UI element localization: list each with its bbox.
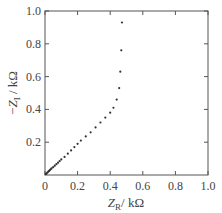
y-tick-label: 1.0 bbox=[26, 4, 41, 18]
data-point bbox=[119, 71, 121, 73]
data-point bbox=[90, 131, 92, 133]
data-point bbox=[54, 165, 56, 167]
y-tick-label: 0.2 bbox=[26, 135, 41, 149]
data-point bbox=[63, 156, 65, 158]
x-tick-label: 0.2 bbox=[70, 179, 85, 193]
data-point bbox=[120, 49, 122, 51]
y-tick-label: 0.8 bbox=[26, 37, 41, 51]
nyquist-plot: 00.20.40.60.81.0 0.20.40.60.81.0 ZR/ kΩ … bbox=[0, 0, 222, 213]
data-point bbox=[116, 98, 118, 100]
axis-ticks bbox=[45, 11, 208, 175]
y-tick-labels: 0.20.40.60.81.0 bbox=[26, 4, 41, 149]
y-tick-label: 0.4 bbox=[26, 102, 41, 116]
data-point bbox=[60, 158, 62, 160]
data-point bbox=[109, 112, 111, 114]
data-point bbox=[73, 146, 75, 148]
data-point bbox=[70, 149, 72, 151]
data-point bbox=[94, 126, 96, 128]
data-points bbox=[45, 21, 123, 175]
data-point bbox=[99, 121, 101, 123]
x-axis-title: ZR/ kΩ bbox=[108, 195, 144, 212]
data-point bbox=[112, 107, 114, 109]
data-point bbox=[52, 166, 54, 168]
data-point bbox=[121, 21, 123, 23]
data-point bbox=[80, 139, 82, 141]
data-point bbox=[104, 117, 106, 119]
x-tick-label: 0.6 bbox=[135, 179, 150, 193]
x-tick-label: 1.0 bbox=[201, 179, 216, 193]
data-point bbox=[77, 143, 79, 145]
data-point bbox=[118, 87, 120, 89]
data-point bbox=[55, 163, 57, 165]
plot-frame bbox=[45, 11, 208, 175]
data-point bbox=[85, 135, 87, 137]
data-point bbox=[57, 162, 59, 164]
x-tick-label: 0.8 bbox=[168, 179, 183, 193]
x-tick-label: 0 bbox=[42, 179, 48, 193]
data-point bbox=[59, 160, 61, 162]
data-point bbox=[67, 153, 69, 155]
y-axis-title: −ZI / kΩ bbox=[5, 71, 22, 115]
y-tick-label: 0.6 bbox=[26, 70, 41, 84]
x-tick-labels: 00.20.40.60.81.0 bbox=[42, 179, 216, 193]
x-tick-label: 0.4 bbox=[103, 179, 118, 193]
